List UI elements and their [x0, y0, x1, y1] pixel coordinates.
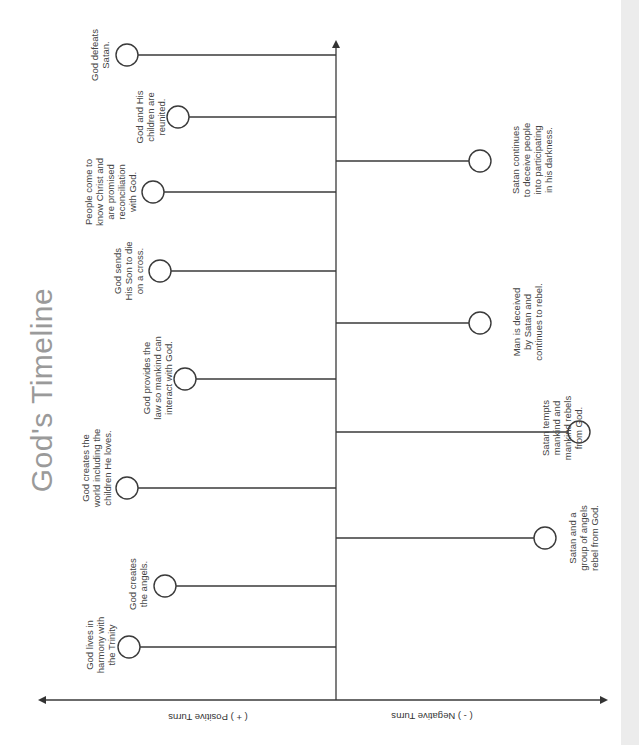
event-label-satan-defeated: God defeats Satan.	[89, 29, 111, 81]
event-circle-law	[174, 368, 196, 390]
positive-turns-label: ( + ) Positive Turns	[168, 712, 247, 723]
event-label-angels-rebel: Satan and a group of angels rebel from G…	[567, 505, 600, 571]
event-label-mankind-rebels: Satan tempts mankind and mankind rebels …	[540, 396, 584, 460]
event-label-cross: God sends His Son to die on a cross.	[112, 241, 145, 300]
event-circle-angels-created	[154, 575, 176, 597]
event-label-trinity: God lives in harmony with the Trinity	[84, 617, 117, 674]
event-circle-satan-defeated	[116, 44, 138, 66]
event-circle-trinity	[118, 636, 140, 658]
page-title: God's Timeline	[25, 288, 59, 492]
event-label-world-created: God creates the world including the chil…	[80, 429, 113, 508]
event-circle-satan-deceives	[469, 150, 491, 172]
event-circle-angels-rebel	[534, 527, 556, 549]
event-label-reunited: God and His children are reunited.	[134, 91, 167, 144]
event-circle-world-created	[116, 477, 138, 499]
event-label-angels-created: God creates the angels.	[127, 558, 149, 610]
event-label-law: God provides the law so mankind can inte…	[141, 336, 174, 419]
event-circle-cross	[149, 260, 171, 282]
event-circle-man-deceived	[469, 312, 491, 334]
event-circle-reconciliation	[142, 181, 164, 203]
event-label-man-deceived: Man is deceived by Satan and continues t…	[511, 283, 544, 361]
event-label-reconciliation: People come to know Christ and are promi…	[83, 158, 138, 226]
negative-turns-label: ( - ) Negative Turns	[391, 711, 472, 722]
event-circle-reunited	[167, 106, 189, 128]
event-label-satan-deceives: Satan continues to deceive people into p…	[510, 123, 554, 197]
